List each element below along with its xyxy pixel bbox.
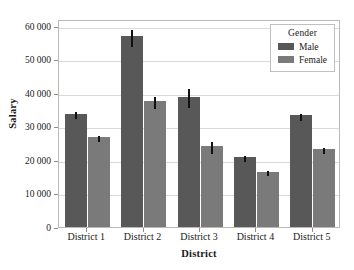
legend-swatch-male-icon: [278, 43, 294, 50]
legend-item-female[interactable]: Female: [278, 54, 327, 65]
bar-female: [313, 149, 335, 227]
x-tick-mark: [312, 228, 313, 232]
y-tick-mark: [54, 127, 58, 128]
chart-figure: Salary District Gender Male Female 010 0…: [0, 0, 354, 270]
y-tick-label: 0: [0, 223, 51, 233]
y-tick-label: 50 000: [0, 55, 51, 65]
legend-swatch-female-icon: [278, 56, 294, 63]
error-bar: [267, 171, 269, 176]
x-tick-mark: [255, 228, 256, 232]
error-bar: [154, 97, 156, 109]
y-tick-mark: [54, 94, 58, 95]
bar-female: [88, 137, 110, 227]
y-tick-mark: [54, 60, 58, 61]
bar-male: [290, 115, 312, 227]
y-tick-label: 10 000: [0, 189, 51, 199]
plot-area: Gender Male Female: [58, 20, 340, 228]
y-tick-mark: [54, 194, 58, 195]
x-axis-title: District: [58, 248, 340, 259]
y-tick-label: 40 000: [0, 89, 51, 99]
error-bar: [244, 156, 246, 162]
error-bar: [300, 114, 302, 121]
y-tick-mark: [54, 228, 58, 229]
bar-male: [178, 97, 200, 228]
error-bar: [323, 148, 325, 153]
x-tick-label: District 5: [274, 231, 350, 243]
y-tick-mark: [54, 161, 58, 162]
error-bar: [211, 142, 213, 154]
legend-label-female: Female: [299, 55, 327, 65]
legend-title: Gender: [278, 28, 327, 38]
legend[interactable]: Gender Male Female: [270, 24, 335, 72]
x-tick-mark: [86, 228, 87, 232]
error-bar: [75, 112, 77, 119]
x-tick-mark: [199, 228, 200, 232]
error-bar: [131, 30, 133, 47]
bar-female: [144, 101, 166, 227]
y-tick-label: 20 000: [0, 156, 51, 166]
bar-male: [121, 36, 143, 227]
bar-male: [234, 157, 256, 227]
legend-label-male: Male: [299, 42, 319, 52]
error-bar: [188, 89, 190, 107]
x-tick-mark: [143, 228, 144, 232]
y-tick-label: 30 000: [0, 122, 51, 132]
bar-female: [257, 172, 279, 227]
error-bar: [98, 136, 100, 141]
bar-male: [65, 114, 87, 227]
bar-female: [201, 146, 223, 227]
y-tick-label: 60 000: [0, 22, 51, 32]
y-tick-mark: [54, 27, 58, 28]
legend-item-male[interactable]: Male: [278, 41, 327, 52]
